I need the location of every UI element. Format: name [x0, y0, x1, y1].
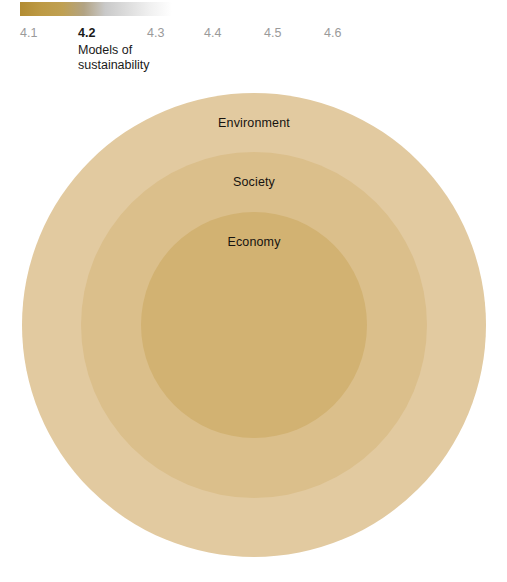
- ring-label-economy: Economy: [141, 235, 367, 249]
- ring-economy: Economy: [141, 212, 367, 438]
- ring-label-society: Society: [81, 175, 427, 189]
- ring-label-environment: Environment: [22, 116, 486, 130]
- sustainability-nested-circles-diagram: Environment Society Economy: [0, 0, 507, 582]
